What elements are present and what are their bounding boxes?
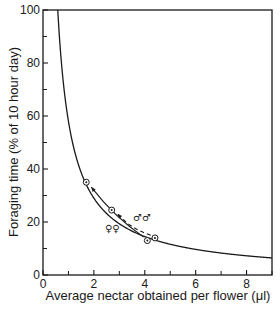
annotation-males: ♂♂ bbox=[133, 212, 151, 223]
y-axis-title: Foraging time (% of 10 hour day) bbox=[6, 47, 21, 237]
predicted-curve bbox=[58, 10, 272, 258]
curve bbox=[58, 10, 272, 258]
axis-ticks bbox=[43, 10, 272, 275]
x-axis-title: Average nectar obtained per flower (μl) bbox=[46, 288, 271, 303]
y-tick-label: 20 bbox=[27, 215, 41, 229]
plot-frame bbox=[43, 10, 272, 275]
chart: 02468020406080100 ♂♂ ♀♀ Average nectar o… bbox=[0, 0, 280, 309]
y-tick-label: 40 bbox=[27, 162, 41, 176]
y-tick-label: 80 bbox=[27, 56, 41, 70]
y-tick-label: 60 bbox=[27, 109, 41, 123]
data-point-center bbox=[146, 240, 148, 242]
data-point-center bbox=[111, 209, 113, 211]
data-point-center bbox=[154, 237, 156, 239]
annotation-females: ♀♀ bbox=[105, 223, 120, 234]
y-tick-label: 100 bbox=[20, 3, 40, 17]
y-tick-label: 0 bbox=[33, 268, 40, 282]
tick-labels: 02468020406080100 bbox=[20, 3, 250, 291]
data-point-center bbox=[85, 181, 87, 183]
